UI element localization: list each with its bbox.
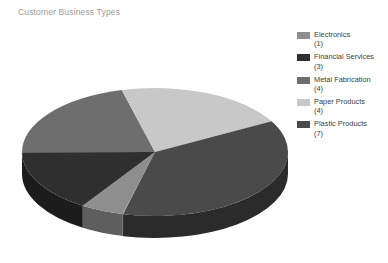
legend-item-metal-fabrication[interactable]: Metal Fabrication (4) [297, 75, 388, 94]
legend-swatch-icon [297, 77, 310, 84]
legend-swatch-icon [297, 99, 310, 106]
legend-count: (7) [314, 129, 367, 138]
pie-slices [22, 88, 288, 216]
legend-label: Paper Products [314, 97, 365, 106]
legend-label: Financial Services [314, 52, 374, 61]
legend-swatch-icon [297, 54, 310, 61]
legend-item-financial-services[interactable]: Financial Services (3) [297, 52, 388, 71]
legend-count: (3) [314, 62, 374, 71]
legend-count: (4) [314, 106, 365, 115]
pie-svg [0, 48, 300, 248]
legend-label: Metal Fabrication [314, 75, 371, 84]
pie-chart-panel: Customer Business Types Electronics (1) … [0, 0, 388, 263]
legend-swatch-icon [297, 121, 310, 128]
legend-label: Electronics [314, 30, 350, 39]
legend-label: Plastic Products [314, 119, 367, 128]
legend-item-electronics[interactable]: Electronics (1) [297, 30, 388, 49]
chart-legend: Electronics (1) Financial Services (3) M… [297, 30, 388, 142]
legend-count: (1) [314, 39, 350, 48]
legend-item-plastic-products[interactable]: Plastic Products (7) [297, 119, 388, 138]
legend-count: (4) [314, 84, 371, 93]
pie-chart-graphic [0, 48, 300, 248]
chart-title: Customer Business Types [18, 7, 120, 17]
legend-swatch-icon [297, 32, 310, 39]
legend-item-paper-products[interactable]: Paper Products (4) [297, 97, 388, 116]
